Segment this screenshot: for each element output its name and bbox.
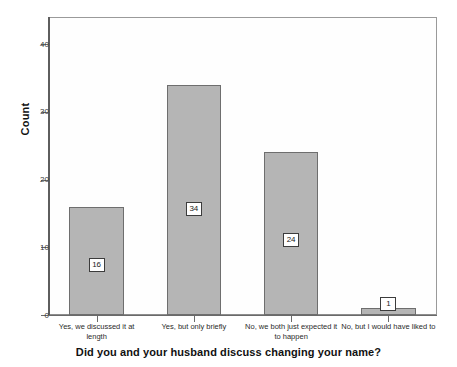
- x-axis-title: Did you and your husband discuss changin…: [0, 346, 457, 358]
- x-axis-category-label: No, but I would have liked to: [340, 322, 437, 332]
- y-axis-line: [48, 17, 50, 316]
- y-axis-tick-label-wrap: 0: [14, 311, 49, 320]
- y-axis-title: Count: [19, 79, 37, 159]
- x-axis-category-label: No, we both just expected it to happen: [243, 322, 340, 341]
- bar[interactable]: [167, 85, 221, 315]
- y-axis-tick-label: 40: [27, 40, 49, 49]
- y-axis-tick-label: 30: [27, 107, 49, 116]
- bar-value-label: 16: [89, 258, 105, 272]
- bar-chart: Count 010203040 16Yes, we discussed it a…: [0, 0, 457, 367]
- y-axis-tick-label-wrap: 30: [14, 107, 49, 116]
- y-axis-tick-label-wrap: 40: [14, 40, 49, 49]
- y-axis-tick-label: 20: [27, 175, 49, 184]
- x-axis-line: [48, 315, 437, 316]
- bar-value-label: 34: [186, 202, 202, 216]
- y-axis-tick-label: 10: [27, 243, 49, 252]
- y-axis-tick-label-wrap: 20: [14, 175, 49, 184]
- x-axis-category-label: Yes, we discussed it at length: [48, 322, 145, 341]
- x-axis-category-label: Yes, but only briefly: [145, 322, 242, 332]
- y-axis-tick-label: 0: [27, 311, 49, 320]
- bar-value-label: 1: [380, 297, 396, 311]
- bar-value-label: 24: [283, 233, 299, 247]
- y-axis-tick-label-wrap: 10: [14, 243, 49, 252]
